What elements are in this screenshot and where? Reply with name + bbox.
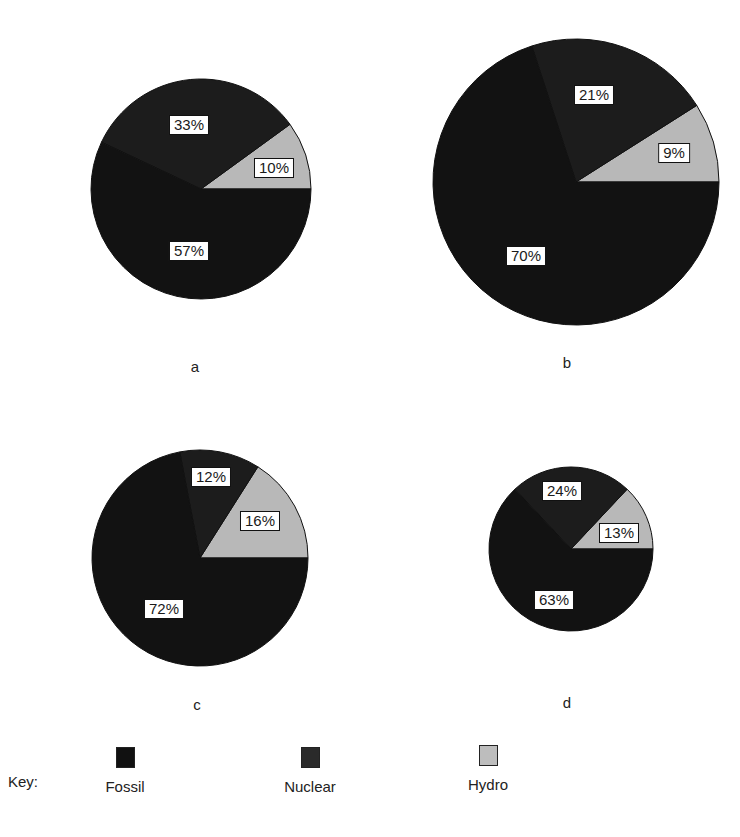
label-d-hydro: 13%	[599, 523, 639, 543]
pie-chart-a	[91, 79, 311, 299]
label-c-fossil: 72%	[144, 599, 184, 619]
legend-label-nuclear: Nuclear	[270, 778, 350, 795]
label-a-hydro: 10%	[254, 158, 294, 178]
label-d-nuclear: 24%	[542, 481, 582, 501]
chart-letter-b: b	[563, 354, 571, 371]
nuclear-swatch-icon	[301, 747, 320, 768]
hydro-swatch-icon	[479, 745, 498, 766]
legend-title: Key:	[8, 773, 38, 790]
legend-item-nuclear: Nuclear	[270, 747, 350, 795]
label-b-hydro: 9%	[658, 143, 690, 163]
figure: 57% 33% 10% 70% 21% 9% 72% 12% 16% 63% 2…	[0, 0, 740, 837]
pie-chart-b	[433, 39, 719, 325]
label-c-nuclear: 12%	[191, 467, 231, 487]
legend-item-fossil: Fossil	[85, 747, 165, 795]
label-b-nuclear: 21%	[574, 85, 614, 105]
legend-item-hydro: Hydro	[448, 745, 528, 793]
pie-charts-canvas	[0, 0, 740, 837]
chart-letter-a: a	[191, 358, 199, 375]
label-d-fossil: 63%	[534, 590, 574, 610]
label-a-fossil: 57%	[169, 241, 209, 261]
fossil-swatch-icon	[116, 747, 135, 768]
legend-label-fossil: Fossil	[85, 778, 165, 795]
legend-label-hydro: Hydro	[448, 776, 528, 793]
chart-letter-d: d	[563, 694, 571, 711]
label-a-nuclear: 33%	[169, 115, 209, 135]
chart-letter-c: c	[193, 696, 201, 713]
label-c-hydro: 16%	[240, 511, 280, 531]
label-b-fossil: 70%	[506, 246, 546, 266]
